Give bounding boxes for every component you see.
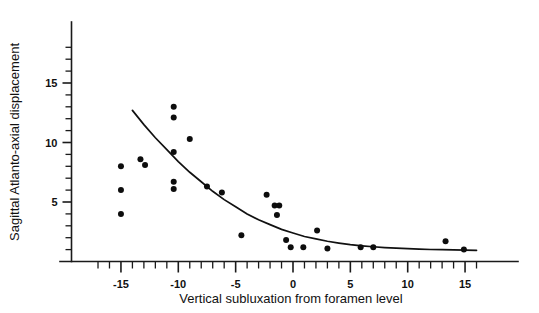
x-tick-label: 15 [459, 278, 471, 290]
y-tick-label: 5 [51, 196, 57, 208]
y-tick-label: 10 [45, 137, 57, 149]
x-axis: -15-10-5051015 [60, 262, 518, 290]
scatter-point [264, 192, 270, 198]
scatter-point [283, 237, 289, 243]
scatter-point [171, 149, 177, 155]
scatter-plot-figure: 51015 -15-10-5051015 Vertical subluxatio… [0, 0, 539, 313]
y-axis: 51015 [45, 22, 71, 262]
scatter-point [370, 244, 376, 250]
scatter-point [300, 244, 306, 250]
scatter-point [171, 115, 177, 121]
scatter-point [219, 189, 225, 195]
scatter-point [137, 156, 143, 162]
x-tick-label: -10 [170, 278, 186, 290]
scatter-point [187, 136, 193, 142]
scatter-point [324, 245, 330, 251]
x-tick-label: 10 [402, 278, 414, 290]
scatter-point [288, 244, 294, 250]
y-tick-label: 15 [45, 77, 57, 89]
scatter-point [274, 212, 280, 218]
scatter-point [171, 179, 177, 185]
x-axis-title: Vertical subluxation from foramen level [179, 291, 402, 306]
x-tick-label: -5 [231, 278, 241, 290]
x-tick-label: 0 [290, 278, 296, 290]
scatter-point [118, 211, 124, 217]
y-axis-title: Sagittal Atlanto-axial displacement [7, 43, 22, 241]
fitted-curve [132, 110, 476, 250]
scatter-point [358, 244, 364, 250]
data-points [118, 104, 467, 253]
plot-canvas: 51015 -15-10-5051015 Vertical subluxatio… [0, 0, 539, 313]
scatter-point [443, 238, 449, 244]
scatter-point [171, 104, 177, 110]
scatter-point [118, 187, 124, 193]
scatter-point [142, 162, 148, 168]
fit-curve-line [132, 110, 476, 250]
x-tick-label: 5 [347, 278, 353, 290]
scatter-point [118, 163, 124, 169]
scatter-point [171, 186, 177, 192]
scatter-point [314, 228, 320, 234]
scatter-point [204, 184, 210, 190]
scatter-point [461, 247, 467, 253]
x-tick-label: -15 [113, 278, 129, 290]
scatter-point [238, 232, 244, 238]
scatter-point [276, 203, 282, 209]
